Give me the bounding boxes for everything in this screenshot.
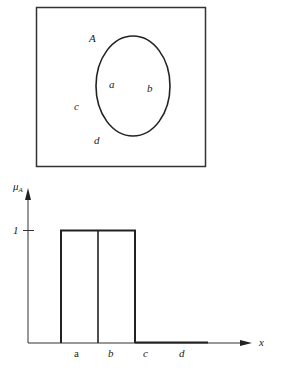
y-axis-arrow-icon	[25, 188, 31, 200]
set-a-ellipse	[96, 36, 170, 136]
venn-diagram: A a b c d	[37, 8, 206, 167]
y-tick-label: 1	[13, 224, 19, 236]
element-c: c	[74, 100, 79, 112]
mu-subscript: A	[18, 186, 24, 194]
x-label-b: b	[108, 347, 114, 359]
x-label-d: d	[179, 347, 185, 359]
y-axis-label: μA	[12, 180, 24, 194]
set-label-a: A	[88, 32, 96, 44]
element-b: b	[147, 82, 153, 94]
element-d: d	[94, 134, 100, 146]
x-label-a: a	[74, 347, 79, 359]
x-axis-arrow-icon	[240, 340, 252, 346]
x-label-c: c	[143, 347, 148, 359]
element-a: a	[109, 78, 115, 90]
x-axis-label: x	[258, 336, 264, 348]
membership-chart: 1 μA a b c d x	[12, 180, 264, 359]
diagram-canvas: A a b c d 1 μA a b c d x	[0, 0, 281, 376]
universe-box	[37, 8, 206, 167]
